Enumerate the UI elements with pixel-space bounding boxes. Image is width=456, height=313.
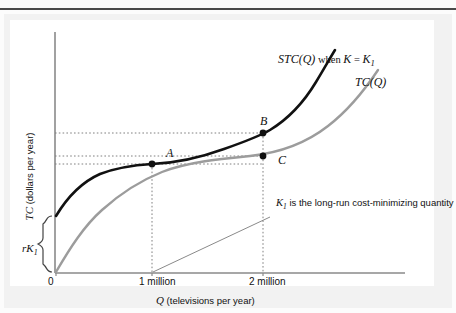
point-a-marker <box>149 161 156 168</box>
annotation-k-symbol: K <box>276 197 283 208</box>
stc-curve-label: STC(Q) when K = K1 <box>278 52 375 69</box>
x-axis-title: Q (televisions per year) <box>156 294 255 307</box>
tc-label-paren: (Q) <box>370 75 387 89</box>
rk1-label-subscript: 1 <box>34 248 38 257</box>
figure-root: STC(Q) when K = K1 TC(Q) A B C 0 1 milli… <box>0 0 456 313</box>
stc-label-k1: K <box>363 52 371 66</box>
stc-label-main: STC <box>278 52 299 66</box>
point-b-marker <box>260 130 267 137</box>
stc-label-paren: (Q) <box>299 52 316 66</box>
point-a-label: A <box>166 146 173 160</box>
x-tick-label-2million: 2 million <box>249 276 286 288</box>
tc-label-main: TC <box>355 75 370 89</box>
rk1-label-k: K <box>26 242 33 254</box>
x-tick-label-1million: 1 million <box>139 276 176 288</box>
x-axis-title-symbol: Q <box>156 294 164 306</box>
point-b-label: B <box>260 114 267 128</box>
point-c-label: C <box>278 153 286 167</box>
annotation-text: is the long-run cost-minimizing quantity… <box>287 197 456 208</box>
x-tick-label-0: 0 <box>48 276 54 288</box>
annotation-leader-line <box>153 217 270 272</box>
top-horizontal-rule <box>0 8 456 10</box>
y-axis-title-symbol: TC <box>23 207 35 220</box>
point-c-marker <box>260 153 267 160</box>
stc-label-equals: = <box>351 54 362 65</box>
plot-area: STC(Q) when K = K1 TC(Q) A B C 0 1 milli… <box>10 20 434 286</box>
rk1-bracket-label: rK1 <box>22 242 38 258</box>
tc-curve-label: TC(Q) <box>355 75 386 89</box>
y-axis-title-units: (dollars per year) <box>24 133 35 207</box>
x-axis-title-units: (televisions per year) <box>164 295 255 306</box>
annotation-note: K1 is the long-run cost-minimizing quant… <box>276 196 384 211</box>
y-axis-title: TC (dollars per year) <box>23 101 36 251</box>
stc-label-when: when <box>315 54 343 65</box>
stc-label-k1-subscript: 1 <box>371 58 375 68</box>
rk1-brace <box>38 216 52 272</box>
